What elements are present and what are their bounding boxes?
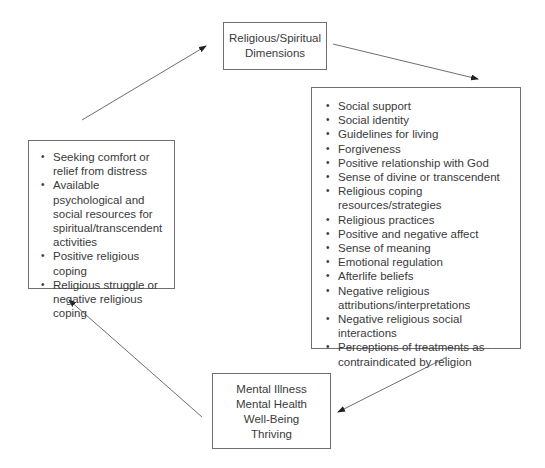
list-item: Negative religious attributions/interpre… xyxy=(324,284,488,312)
bottom-box-line: Mental Health xyxy=(213,397,330,412)
list-item: Sense of divine or transcendent xyxy=(324,170,514,184)
arrow-left-to-top xyxy=(82,46,206,120)
dimensions-list: Social support Social identity Guideline… xyxy=(324,99,514,369)
dimensions-list-box: Social support Social identity Guideline… xyxy=(311,87,521,349)
list-item: Religious coping resources/strategies xyxy=(324,184,514,212)
mental-health-outcomes-box: Mental Illness Mental Health Well-Being … xyxy=(212,373,331,449)
coping-list-box: Seeking comfort or relief from distress … xyxy=(28,140,175,289)
bottom-box-line: Mental Illness xyxy=(213,382,330,397)
list-item: Available psychological and social resou… xyxy=(39,178,170,249)
bottom-box-line: Well-Being xyxy=(213,412,330,427)
list-item: Religious practices xyxy=(324,213,514,227)
top-box-line: Dimensions xyxy=(224,46,326,61)
coping-list: Seeking comfort or relief from distress … xyxy=(39,150,170,320)
bottom-box-line: Thriving xyxy=(213,427,330,442)
list-item: Social support xyxy=(324,99,514,113)
list-item: Afterlife beliefs xyxy=(324,269,514,283)
list-item: Positive and negative affect xyxy=(324,227,514,241)
list-item: Emotional regulation xyxy=(324,255,514,269)
top-box-line: Religious/Spiritual xyxy=(224,31,326,46)
religious-spiritual-dimensions-box: Religious/Spiritual Dimensions xyxy=(223,22,327,70)
arrow-top-to-right xyxy=(333,44,478,79)
list-item: Positive religious coping xyxy=(39,249,170,277)
list-item: Perceptions of treatments as contraindic… xyxy=(324,340,488,368)
list-item: Positive relationship with God xyxy=(324,156,514,170)
list-item: Religious struggle or negative religious… xyxy=(39,278,170,321)
list-item: Negative religious social interactions xyxy=(324,312,514,340)
list-item: Guidelines for living xyxy=(324,127,514,141)
list-item: Social identity xyxy=(324,113,514,127)
list-item: Forgiveness xyxy=(324,142,514,156)
list-item: Seeking comfort or relief from distress xyxy=(39,150,170,178)
list-item: Sense of meaning xyxy=(324,241,514,255)
